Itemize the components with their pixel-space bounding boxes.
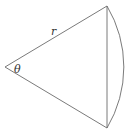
angle-label: θ	[14, 63, 21, 76]
sector-shape	[5, 6, 124, 128]
arc	[107, 6, 124, 128]
sector-diagram: r θ	[0, 0, 131, 133]
radius-label: r	[51, 25, 57, 38]
radius-bottom-line	[5, 67, 107, 128]
